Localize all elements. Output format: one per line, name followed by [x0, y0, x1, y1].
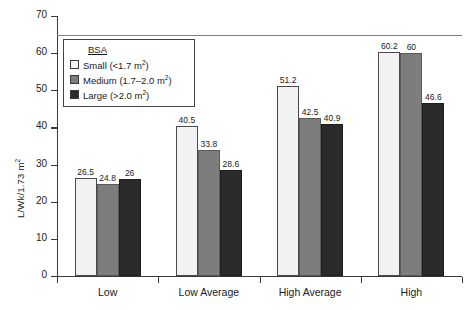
bar-value-label: 46.6 — [425, 92, 442, 102]
x-axis-tick-mark — [462, 277, 463, 283]
x-axis-category-label: Low Average — [179, 286, 240, 298]
legend-label-small: Small (<1.7 m2) — [83, 57, 149, 71]
bar-value-label: 26.5 — [77, 167, 94, 177]
x-axis-tick-mark — [158, 277, 159, 283]
y-axis-line — [57, 16, 58, 277]
bar-large[interactable] — [119, 179, 141, 276]
legend-title: BSA — [88, 44, 188, 55]
bar-small[interactable] — [277, 86, 299, 276]
legend-label-large: Large (>2.0 m2) — [83, 87, 149, 101]
bar-value-label: 33.8 — [201, 139, 218, 149]
x-axis-tick-mark — [57, 277, 58, 283]
y-axis-tick-mark — [51, 202, 57, 203]
y-axis-title: L/Wk/1.73 m2 — [14, 18, 32, 218]
y-axis-tick-label: 50 — [36, 83, 47, 94]
y-axis-tick-label: 40 — [36, 120, 47, 131]
bar-value-label: 51.2 — [280, 75, 297, 85]
x-axis-tick-mark — [361, 277, 362, 283]
y-axis-tick-mark — [51, 127, 57, 128]
x-axis-category-label: Low — [98, 286, 117, 298]
bar-medium[interactable] — [400, 53, 422, 276]
bar-value-label: 60 — [407, 42, 416, 52]
legend-swatch-medium-icon — [70, 75, 79, 84]
legend-label-medium: Medium (1.7–2.0 m2) — [83, 72, 172, 86]
legend-swatch-small-icon — [70, 60, 79, 69]
legend: BSA Small (<1.7 m2) Medium (1.7–2.0 m2) … — [63, 39, 195, 107]
y-axis-tick-mark — [51, 165, 57, 166]
bar-value-label: 40.5 — [179, 115, 196, 125]
bar-large[interactable] — [321, 124, 343, 276]
x-axis-tick-mark — [260, 277, 261, 283]
bar-value-label: 42.5 — [302, 107, 319, 117]
bar-small[interactable] — [378, 52, 400, 276]
y-axis-tick-label: 20 — [36, 195, 47, 206]
legend-swatch-large-icon — [70, 90, 79, 99]
y-axis-tick-mark — [51, 16, 57, 17]
bar-value-label: 28.6 — [223, 159, 240, 169]
y-axis-tick-label: 60 — [36, 46, 47, 57]
bar-large[interactable] — [220, 170, 242, 276]
bar-medium[interactable] — [97, 184, 119, 276]
bar-value-label: 60.2 — [381, 41, 398, 51]
y-axis-tick-label: 10 — [36, 232, 47, 243]
y-axis-title-superscript: 2 — [14, 159, 21, 163]
x-axis-category-label: High — [401, 286, 423, 298]
bar-medium[interactable] — [299, 118, 321, 276]
y-axis-title-text: L/Wk/1.73 m — [15, 162, 26, 218]
bar-value-label: 26 — [125, 168, 134, 178]
bar-small[interactable] — [75, 178, 97, 276]
y-axis-tick-mark — [51, 53, 57, 54]
y-axis-tick-label: 70 — [36, 9, 47, 20]
bar-value-label: 24.8 — [99, 173, 116, 183]
legend-item-large[interactable]: Large (>2.0 m2) — [70, 87, 188, 101]
y-axis-tick-mark — [51, 90, 57, 91]
y-axis-tick-label: 0 — [41, 269, 47, 280]
legend-item-medium[interactable]: Medium (1.7–2.0 m2) — [70, 72, 188, 86]
reference-line — [57, 35, 462, 36]
legend-item-small[interactable]: Small (<1.7 m2) — [70, 57, 188, 71]
bar-small[interactable] — [176, 126, 198, 276]
y-axis-tick-mark — [51, 239, 57, 240]
bar-chart: L/Wk/1.73 m2 010203040506070 LowLow Aver… — [0, 0, 475, 310]
x-axis-category-label: High Average — [279, 286, 342, 298]
y-axis-tick-label: 30 — [36, 158, 47, 169]
bar-medium[interactable] — [198, 150, 220, 276]
bar-large[interactable] — [422, 103, 444, 276]
bar-value-label: 40.9 — [324, 113, 341, 123]
